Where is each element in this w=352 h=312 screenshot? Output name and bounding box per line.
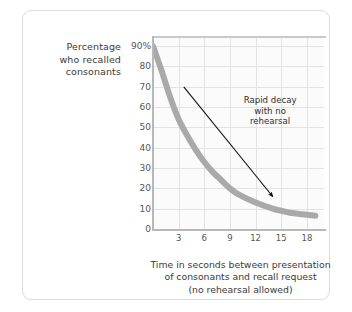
y-axis-tick-label: 20 bbox=[111, 183, 151, 193]
x-axis-tick-label: 9 bbox=[218, 233, 242, 243]
plot-top-border bbox=[153, 36, 326, 38]
y-axis-title-line-2: who recalled bbox=[33, 54, 121, 67]
annotation-line-2: with no bbox=[244, 106, 297, 117]
y-axis-tick-label: 10 bbox=[111, 204, 151, 214]
y-axis-tick-label: 0 bbox=[111, 224, 151, 234]
y-axis-tick-label: 90% bbox=[111, 41, 151, 51]
y-axis-tick-label: 80 bbox=[111, 61, 151, 71]
plot-area: Rapid decay with no rehearsal bbox=[153, 36, 324, 229]
y-axis-line bbox=[152, 36, 154, 231]
y-axis-title-line-3: consonants bbox=[33, 66, 121, 79]
y-axis-tick-label: 60 bbox=[111, 102, 151, 112]
x-axis-tick-label: 3 bbox=[167, 233, 191, 243]
y-axis-tick-label: 40 bbox=[111, 143, 151, 153]
annotation-line-1: Rapid decay bbox=[244, 95, 297, 106]
y-axis-title-line-1: Percentage bbox=[33, 41, 121, 54]
x-axis-tick-label: 12 bbox=[244, 233, 268, 243]
x-axis-tick-label: 18 bbox=[295, 233, 319, 243]
y-axis-title: Percentage who recalled consonants bbox=[33, 41, 121, 79]
x-axis-tick-label: 15 bbox=[269, 233, 293, 243]
plot-wrapper: Rapid decay with no rehearsal 90%8070605… bbox=[129, 36, 324, 243]
annotation-arrow bbox=[153, 36, 324, 229]
x-axis-caption-line-3: (no rehearsal allowed) bbox=[133, 284, 348, 296]
y-axis-tick-label: 50 bbox=[111, 122, 151, 132]
y-axis-tick-label: 30 bbox=[111, 163, 151, 173]
x-axis-caption: Time in seconds between presentation of … bbox=[133, 259, 348, 296]
x-axis-line bbox=[153, 229, 326, 231]
annotation-label: Rapid decay with no rehearsal bbox=[244, 95, 297, 127]
annotation-line-3: rehearsal bbox=[244, 116, 297, 127]
x-axis-tick-label: 6 bbox=[192, 233, 216, 243]
x-axis-caption-line-2: of consonants and recall request bbox=[133, 271, 348, 283]
x-axis-caption-line-1: Time in seconds between presentation bbox=[133, 259, 348, 271]
y-axis-tick-label: 70 bbox=[111, 82, 151, 92]
figure-frame: Percentage who recalled consonants Rapid… bbox=[22, 10, 330, 300]
